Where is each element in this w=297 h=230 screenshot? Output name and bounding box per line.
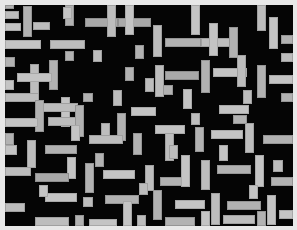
packed-rectangle-horizontal — [211, 130, 243, 139]
packed-rectangle-vertical — [169, 145, 178, 159]
packed-rectangle-vertical — [201, 60, 210, 93]
packed-rectangle-horizontal — [43, 103, 78, 112]
packed-rectangle-horizontal — [33, 22, 50, 30]
packed-rectangle-horizontal — [5, 118, 38, 127]
packed-rectangle-vertical — [181, 155, 190, 187]
packed-rectangle-horizontal — [263, 135, 293, 144]
packed-rectangle-vertical — [95, 153, 104, 167]
packed-rectangle-vertical — [139, 183, 148, 195]
packed-rectangle-horizontal — [35, 217, 69, 226]
packed-rectangle-horizontal — [271, 177, 293, 186]
packed-rectangle-vertical — [201, 211, 210, 226]
packed-rectangle-vertical — [201, 160, 210, 190]
packed-rectangle-vertical — [5, 57, 15, 67]
packed-rectangle-vertical — [113, 90, 122, 106]
packed-rectangle-vertical — [229, 27, 238, 58]
packed-rectangle-vertical — [195, 127, 204, 152]
packed-rectangle-horizontal — [223, 215, 255, 224]
packed-rectangle-vertical — [163, 85, 173, 95]
packed-rectangle-horizontal — [233, 115, 247, 124]
packed-rectangle-horizontal — [45, 193, 77, 202]
packed-rectangle-vertical — [133, 133, 142, 155]
packed-rectangle-vertical — [5, 80, 14, 90]
packed-rectangle-vertical — [191, 5, 200, 35]
packed-rectangle-vertical — [245, 123, 254, 153]
packed-rectangle-vertical — [137, 215, 146, 226]
packed-rectangle-vertical — [183, 89, 192, 109]
packed-rectangle-horizontal — [5, 11, 19, 19]
packed-rectangle-vertical — [85, 163, 94, 193]
packed-rectangle-horizontal — [103, 170, 135, 179]
packed-rectangle-vertical — [267, 195, 276, 225]
packed-rectangle-vertical — [93, 50, 102, 62]
packed-rectangle-horizontal — [89, 135, 123, 144]
packed-rectangle-vertical — [65, 51, 74, 61]
packed-rectangle-vertical — [191, 113, 200, 125]
packed-rectangle-vertical — [135, 45, 144, 59]
packed-rectangle-vertical — [153, 25, 162, 57]
packed-rectangle-horizontal — [5, 40, 41, 49]
packed-rectangle-vertical — [257, 5, 266, 31]
packed-rectangle-vertical — [5, 5, 14, 9]
packed-rectangle-horizontal — [5, 23, 21, 31]
packed-rectangle-vertical — [27, 140, 36, 168]
packed-rectangle-vertical — [219, 145, 228, 161]
packed-rectangle-horizontal — [219, 105, 249, 114]
packed-rectangle-vertical — [257, 211, 266, 226]
packed-rectangle-horizontal — [269, 75, 293, 84]
packed-rectangle-horizontal — [89, 219, 117, 226]
packed-rectangle-vertical — [273, 160, 283, 172]
packed-rectangle-vertical — [123, 201, 132, 226]
packed-rectangle-vertical — [255, 155, 264, 187]
packed-rectangle-vertical — [39, 185, 48, 197]
packed-rectangle-horizontal — [5, 203, 25, 212]
packed-rectangle-vertical — [71, 125, 80, 141]
packed-rectangle-vertical — [5, 133, 14, 145]
packed-rectangle-vertical — [5, 145, 17, 155]
packed-rectangle-horizontal — [50, 40, 85, 49]
packed-rectangle-horizontal — [105, 195, 139, 204]
packed-rectangle-vertical — [145, 78, 154, 92]
packed-rectangle-horizontal — [165, 217, 195, 226]
packed-rectangle-horizontal — [118, 18, 151, 27]
packed-rectangle-vertical — [125, 67, 134, 81]
packed-rectangle-horizontal — [5, 93, 39, 102]
packed-rectangle-horizontal — [217, 165, 251, 174]
packed-rectangle-horizontal — [17, 73, 52, 82]
figure-canvas — [0, 0, 297, 230]
packed-rectangle-horizontal — [281, 93, 293, 102]
packed-rectangle-vertical — [209, 23, 218, 56]
packed-rectangle-vertical — [75, 215, 84, 226]
packed-rectangle-vertical — [83, 197, 93, 207]
packed-rectangle-horizontal — [279, 210, 293, 219]
packed-rectangle-horizontal — [227, 201, 261, 210]
packed-rectangle-vertical — [23, 6, 32, 37]
packed-rectangle-vertical — [243, 90, 252, 104]
packed-rectangle-vertical — [125, 5, 134, 35]
packed-rectangle-vertical — [269, 17, 278, 49]
packed-rectangle-vertical — [63, 7, 72, 19]
packed-rectangle-vertical — [153, 190, 162, 220]
packed-rectangle-horizontal — [131, 107, 156, 116]
packed-rectangle-horizontal — [5, 167, 31, 176]
packed-rectangle-vertical — [237, 55, 246, 87]
packed-rectangle-vertical — [211, 193, 220, 225]
packed-rectangle-vertical — [107, 5, 116, 37]
packed-rectangle-vertical — [249, 185, 258, 199]
packed-rectangle-horizontal — [165, 38, 201, 47]
plot-area — [5, 5, 293, 226]
packed-rectangle-horizontal — [165, 71, 199, 80]
packed-rectangle-horizontal — [175, 200, 205, 209]
packed-rectangle-horizontal — [83, 93, 93, 102]
packed-rectangle-horizontal — [281, 53, 293, 62]
packed-rectangle-horizontal — [281, 35, 293, 44]
packed-rectangle-vertical — [257, 65, 266, 98]
packed-rectangle-horizontal — [45, 145, 77, 154]
packed-rectangle-horizontal — [35, 173, 69, 182]
